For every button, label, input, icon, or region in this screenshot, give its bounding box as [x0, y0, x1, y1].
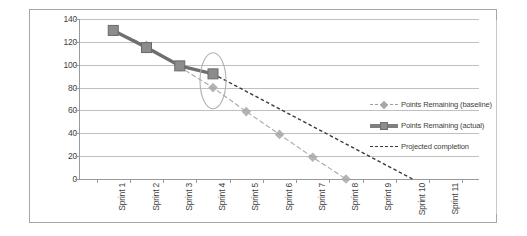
baseline-data-point	[208, 83, 218, 93]
baseline-data-point	[308, 152, 318, 162]
chart-container: 140120100806040200 Sprint 1Sprint 2Sprin…	[29, 9, 497, 223]
dashed-line-icon	[370, 146, 398, 147]
legend-divider	[496, 20, 497, 214]
legend-key-projected	[370, 141, 398, 153]
legend-label-baseline: Points Remaining (baseline)	[401, 100, 492, 109]
legend-item-baseline[interactable]: Points Remaining (baseline)	[370, 94, 496, 115]
legend-label-projected: Projected completion	[401, 142, 469, 151]
legend-key-baseline	[370, 99, 398, 111]
actual-series-line	[113, 30, 213, 73]
diamond-marker-icon	[380, 100, 388, 108]
chart-legend: Points Remaining (baseline) Points Remai…	[370, 94, 496, 157]
actual-data-point	[175, 61, 185, 71]
divergence-highlight-ellipse	[200, 53, 226, 109]
actual-data-point	[108, 25, 118, 35]
legend-item-actual[interactable]: Points Remaining (actual)	[370, 115, 496, 136]
baseline-data-point	[275, 130, 285, 140]
legend-label-actual: Points Remaining (actual)	[401, 121, 484, 130]
actual-data-point	[208, 69, 218, 79]
legend-key-actual	[370, 120, 398, 132]
baseline-data-point	[241, 107, 251, 117]
legend-item-projected[interactable]: Projected completion	[370, 136, 496, 157]
square-marker-icon	[380, 122, 388, 130]
baseline-data-point	[341, 174, 351, 184]
actual-data-point	[142, 43, 152, 53]
